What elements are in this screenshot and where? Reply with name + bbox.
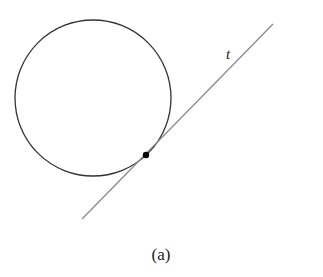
tangent-point	[143, 152, 149, 158]
line-label: t	[226, 46, 231, 62]
figure-caption: (a)	[152, 245, 171, 264]
diagram-canvas: t (a)	[0, 0, 323, 277]
tangent-line	[82, 24, 273, 219]
